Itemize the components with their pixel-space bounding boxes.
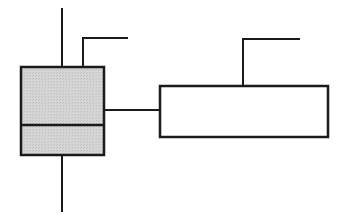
plain-block: [160, 86, 328, 137]
shaded-block: [21, 67, 104, 155]
block-diagram: [0, 0, 350, 224]
right-tab-line: [243, 39, 300, 86]
left-tab-line: [83, 38, 128, 67]
